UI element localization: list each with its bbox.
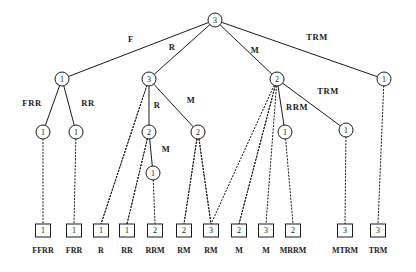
leaf-caption: RM xyxy=(204,246,218,255)
leaf-value: 3 xyxy=(343,226,347,235)
tree-edge xyxy=(220,25,272,74)
tree-edge xyxy=(150,139,153,166)
tree-edge xyxy=(154,25,210,75)
leaf-value: 1 xyxy=(125,226,129,235)
leaf-caption: RRM xyxy=(145,246,165,255)
leaf-value: 1 xyxy=(41,226,45,235)
tree-edge-dotted xyxy=(211,85,274,224)
leaf-connector-dotted xyxy=(153,180,155,224)
leaf-caption: FFRR xyxy=(32,246,54,255)
edge-label: M xyxy=(187,95,196,105)
edge-label: RR xyxy=(81,98,95,108)
tree-node-label: 2 xyxy=(275,75,279,84)
leaf-connector-dotted xyxy=(184,139,197,224)
leaf-value: 2 xyxy=(291,226,295,235)
edge-label: R xyxy=(154,100,161,110)
leaf-connector-dotted xyxy=(239,86,275,224)
tree-node-label: 1 xyxy=(283,128,287,137)
edge-label: M xyxy=(162,144,171,154)
leaf-caption: RR xyxy=(121,246,133,255)
leaf-value: 3 xyxy=(376,226,380,235)
tree-edge xyxy=(45,86,59,126)
tree-diagram-canvas: FRMTRMFRRRRRMRRMTRMM 313211122111 1FFRR1… xyxy=(0,0,416,272)
tree-diagram-figure: FRMTRMFRRRRRMRRMTRMM 313211122111 1FFRR1… xyxy=(0,0,416,272)
tree-node-label: 1 xyxy=(74,128,78,137)
leaf-connector-dotted xyxy=(286,139,293,224)
leaf-caption: M xyxy=(262,246,270,255)
tree-node-label: 3 xyxy=(147,75,151,84)
leaf-connector-dotted xyxy=(378,86,384,224)
leaf-connector-dotted xyxy=(74,139,76,224)
leaf-value: 3 xyxy=(264,226,268,235)
leaf-caption: M xyxy=(235,246,243,255)
tree-node-label: 1 xyxy=(41,128,45,137)
tree-edge xyxy=(64,86,74,125)
leaf-value: 1 xyxy=(72,226,76,235)
leaf-boxes-layer: 1FFRR1FRR1R1RR2RRM2RM3RM2M3M2MRRM3MTRM3T… xyxy=(32,224,387,255)
tree-node-label: 1 xyxy=(382,75,386,84)
leaf-caption: R xyxy=(98,246,104,255)
leaf-caption: MRRM xyxy=(280,246,307,255)
leaf-caption: MTRM xyxy=(332,246,359,255)
edge-label: RRM xyxy=(286,102,308,112)
leaf-value: 2 xyxy=(237,226,241,235)
edge-label: FRR xyxy=(22,98,42,108)
tree-node-label: 2 xyxy=(196,128,200,137)
tree-edge xyxy=(222,22,378,76)
edge-label: TRM xyxy=(306,32,328,42)
leaf-value: 1 xyxy=(99,226,103,235)
leaf-connector-dotted xyxy=(199,139,211,224)
nodes-layer: 313211122111 xyxy=(36,13,391,180)
leaf-caption: FRR xyxy=(66,246,83,255)
leaf-connector-dotted xyxy=(101,86,147,224)
tree-node-label: 1 xyxy=(60,75,64,84)
leaf-caption: RM xyxy=(177,246,191,255)
leaf-caption: TRM xyxy=(369,246,388,255)
leaf-connector-dotted xyxy=(345,137,346,224)
leaf-connector-dotted xyxy=(266,86,276,224)
leaf-value: 2 xyxy=(153,226,157,235)
tree-node-label: 1 xyxy=(151,169,155,178)
tree-edge xyxy=(69,23,209,77)
leaf-value: 3 xyxy=(209,226,213,235)
leaf-connector-dotted xyxy=(127,139,147,224)
edge-label: F xyxy=(128,34,134,44)
leaf-value: 2 xyxy=(182,226,186,235)
edge-label: R xyxy=(169,42,176,52)
tree-edge xyxy=(278,86,284,125)
tree-node-label: 2 xyxy=(147,128,151,137)
tree-node-label: 3 xyxy=(213,16,217,25)
tree-node-label: 1 xyxy=(344,126,348,135)
edge-label: TRM xyxy=(317,86,339,96)
edge-label: M xyxy=(251,45,260,55)
